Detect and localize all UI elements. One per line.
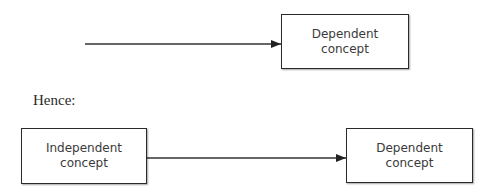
box-label-line2: concept xyxy=(46,156,122,171)
dependent-concept-box-top: Dependent concept xyxy=(281,14,409,69)
dependent-concept-box-bottom: Dependent concept xyxy=(346,128,473,183)
independent-concept-box: Independent concept xyxy=(21,128,147,184)
box-label-line1: Independent xyxy=(46,141,122,156)
box-label-line1: Dependent xyxy=(312,27,379,42)
box-label-line2: concept xyxy=(376,156,443,171)
box-label-line2: concept xyxy=(312,42,379,57)
box-label-line1: Dependent xyxy=(376,141,443,156)
hence-label: Hence: xyxy=(33,92,75,109)
